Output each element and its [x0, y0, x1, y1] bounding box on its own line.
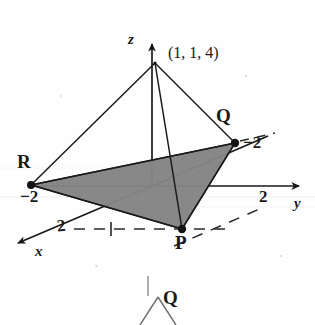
- x-axis-label: x: [35, 244, 43, 259]
- point-Q-label: Q: [216, 106, 231, 125]
- lower-figure-label: Q: [163, 288, 178, 307]
- scan-speck: [95, 265, 98, 267]
- tetrahedron-diagram: [0, 0, 315, 325]
- scan-speck: [280, 255, 282, 257]
- z-axis-label: z: [128, 32, 134, 47]
- scan-speck: [245, 75, 247, 77]
- point-R-label: R: [17, 152, 31, 171]
- apex-coordinate-label: (1, 1, 4): [168, 45, 219, 61]
- point-Q-value-label: −2: [243, 134, 261, 151]
- point-Q-dot: [231, 139, 239, 147]
- x-axis-tick-label: 2: [56, 217, 66, 235]
- y-axis-tick-label: 2: [259, 188, 268, 205]
- y-axis-label: y: [294, 196, 301, 211]
- scan-speck: [60, 95, 62, 97]
- point-R-value-label: −2: [20, 188, 38, 205]
- point-P-label: P: [175, 233, 187, 252]
- point-apex-dot: [153, 61, 156, 64]
- figure-container: ) ( ) [ - ] ( ) [ - ]: [0, 0, 315, 325]
